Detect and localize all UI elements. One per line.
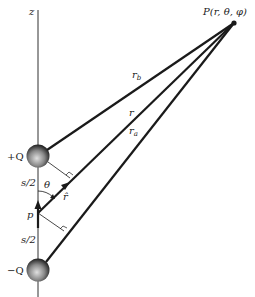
- rb-label: rb: [132, 69, 142, 82]
- z-axis-label: z: [28, 6, 35, 17]
- right-angle-top: [66, 172, 73, 175]
- half-separation-bottom-label: s/2: [21, 234, 36, 245]
- theta-label: θ: [44, 179, 50, 190]
- half-separation-top-label: s/2: [21, 177, 36, 188]
- point-p-label: P(r, θ, φ): [202, 6, 247, 17]
- negative-charge: [27, 259, 50, 282]
- line-ra: [46, 23, 234, 262]
- positive-charge-label: +Q: [7, 151, 24, 162]
- perpendicular-top: [48, 162, 70, 178]
- unit-vector-label: r̂: [63, 191, 69, 202]
- perpendicular-bottom: [38, 213, 64, 231]
- positive-charge: [27, 145, 50, 168]
- line-rb: [47, 23, 234, 150]
- dipole-diagram: z P(r, θ, φ) rb r ra p r̂ θ s/2 s/2 +Q −…: [0, 0, 255, 297]
- dipole-arrowhead: [35, 200, 42, 209]
- point-p: [231, 20, 236, 25]
- r-label: r: [129, 107, 135, 118]
- dipole-label: p: [27, 209, 34, 220]
- ra-label: ra: [129, 125, 138, 138]
- negative-charge-label: −Q: [7, 265, 24, 276]
- theta-arc: [38, 191, 53, 197]
